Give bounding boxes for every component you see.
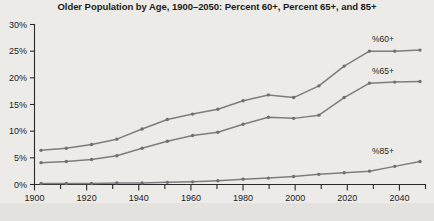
series-marker (292, 96, 295, 99)
series-marker (166, 140, 169, 143)
series-marker (368, 49, 371, 52)
series-marker (166, 118, 169, 121)
chart-plot: 0%5%10%15%20%25%30% 19001920194019601980… (0, 0, 434, 221)
x-tick-label: 2000 (285, 193, 305, 203)
series-marker (292, 117, 295, 120)
x-axis-tick-labels: 19001920194019601980200020202040 (24, 193, 409, 203)
y-axis-ticks (30, 25, 35, 185)
series-marker (65, 182, 68, 185)
y-tick-label: 25% (9, 46, 27, 56)
x-axis-ticks (35, 185, 426, 191)
series-marker (292, 175, 295, 178)
series-line (41, 162, 420, 184)
series-marker (343, 171, 346, 174)
y-tick-label: 10% (9, 126, 27, 136)
series-3 (39, 160, 421, 185)
data-series-group (39, 48, 421, 185)
series-label-3: %85+ (372, 146, 394, 156)
series-line (41, 50, 420, 150)
y-tick-label: 0% (14, 180, 27, 190)
series-marker (65, 160, 68, 163)
x-tick-label: 1900 (24, 193, 44, 203)
series-marker (90, 143, 93, 146)
series-marker (216, 179, 219, 182)
series-1 (39, 48, 421, 152)
series-marker (418, 48, 421, 51)
series-marker (166, 181, 169, 184)
series-marker (216, 131, 219, 134)
series-marker (39, 161, 42, 164)
series-2 (39, 80, 421, 164)
y-axis-group: 0%5%10%15%20%25%30% (9, 20, 35, 190)
series-marker (115, 154, 118, 157)
y-tick-label: 30% (9, 20, 27, 30)
series-marker (241, 123, 244, 126)
y-tick-label: 15% (9, 100, 27, 110)
series-marker (216, 108, 219, 111)
x-axis-group: 19001920194019601980200020202040 (24, 185, 425, 204)
series-marker (343, 96, 346, 99)
series-label-2: %65+ (372, 66, 394, 76)
series-marker (317, 173, 320, 176)
series-marker (140, 181, 143, 184)
series-marker (90, 158, 93, 161)
series-marker (368, 81, 371, 84)
series-marker (191, 180, 194, 183)
series-marker (115, 137, 118, 140)
series-marker (115, 181, 118, 184)
series-marker (317, 84, 320, 87)
x-tick-label: 1940 (129, 193, 149, 203)
series-line (41, 82, 420, 163)
series-marker (393, 49, 396, 52)
chart-container: Older Population by Age, 1900–2050: Perc… (0, 0, 434, 221)
series-labels-group: %60+%65+%85+ (372, 34, 394, 156)
x-tick-label: 2020 (337, 193, 357, 203)
series-marker (241, 177, 244, 180)
series-label-1: %60+ (372, 34, 394, 44)
series-marker (418, 160, 421, 163)
series-marker (90, 182, 93, 185)
series-marker (267, 93, 270, 96)
series-marker (393, 80, 396, 83)
x-tick-label: 1980 (233, 193, 253, 203)
series-marker (191, 134, 194, 137)
series-marker (39, 182, 42, 185)
series-marker (343, 64, 346, 67)
series-marker (140, 127, 143, 130)
series-marker (393, 165, 396, 168)
series-marker (317, 113, 320, 116)
x-tick-label: 1920 (77, 193, 97, 203)
series-marker (241, 99, 244, 102)
series-marker (267, 116, 270, 119)
series-marker (39, 149, 42, 152)
y-tick-label: 5% (14, 153, 27, 163)
series-marker (418, 80, 421, 83)
x-tick-label: 2040 (389, 193, 409, 203)
series-marker (140, 147, 143, 150)
series-marker (65, 147, 68, 150)
y-tick-label: 20% (9, 73, 27, 83)
series-marker (267, 176, 270, 179)
x-tick-label: 1960 (181, 193, 201, 203)
series-marker (191, 112, 194, 115)
y-axis-tick-labels: 0%5%10%15%20%25%30% (9, 20, 27, 190)
series-marker (368, 169, 371, 172)
